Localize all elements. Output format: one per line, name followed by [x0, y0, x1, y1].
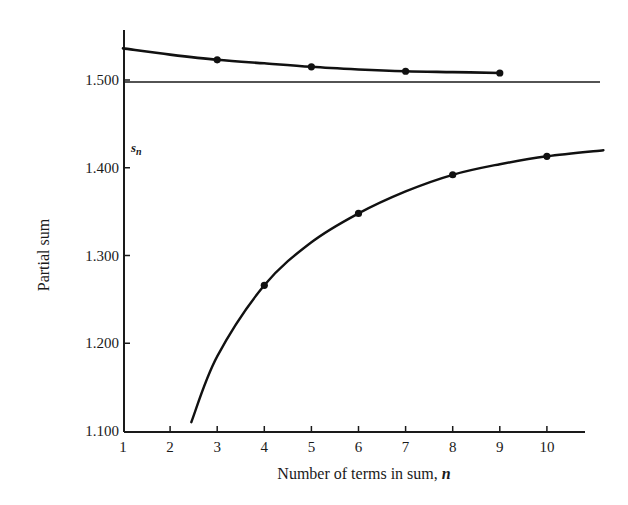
x-ticks: 12345678910: [119, 426, 554, 455]
x-tick-label: 7: [402, 439, 410, 455]
x-tick-label: 4: [261, 439, 269, 455]
series-group: [123, 48, 603, 422]
data-point: [543, 153, 550, 160]
axes: [124, 30, 585, 432]
data-point: [449, 171, 456, 178]
data-point: [261, 282, 268, 289]
data-point: [496, 69, 503, 76]
x-tick-label: 9: [496, 439, 504, 455]
data-point: [402, 68, 409, 75]
x-tick-label: 3: [213, 439, 221, 455]
y-tick-label: 1.300: [85, 248, 119, 264]
x-tick-label: 10: [539, 439, 554, 455]
x-tick-label: 2: [166, 439, 174, 455]
x-tick-label: 8: [449, 439, 457, 455]
x-axis-title: Number of terms in sum, n: [277, 465, 450, 482]
x-tick-label: 6: [355, 439, 363, 455]
y-tick-label: 1.200: [85, 335, 119, 351]
x-tick-label: 5: [308, 439, 316, 455]
data-point: [308, 63, 315, 70]
y-axis-title: Partial sum: [35, 218, 52, 291]
x-axis-title-variable: n: [442, 465, 451, 482]
y-tick-label: 1.500: [85, 72, 119, 88]
data-point: [355, 210, 362, 217]
x-axis-title-text: Number of terms in sum,: [277, 465, 441, 482]
data-point: [214, 56, 221, 63]
partial-sum-chart: 12345678910 1.1001.2001.3001.4001.500 Pa…: [0, 0, 628, 505]
y-tick-label: 1.400: [85, 160, 119, 176]
lower-curve: [191, 150, 603, 422]
series-label-sn: sn: [130, 140, 142, 157]
series-label-subscript: n: [136, 146, 142, 157]
y-tick-label: 1.100: [85, 423, 119, 439]
lower-series: [191, 150, 603, 422]
upper-series: [123, 48, 503, 76]
x-tick-label: 1: [119, 439, 127, 455]
